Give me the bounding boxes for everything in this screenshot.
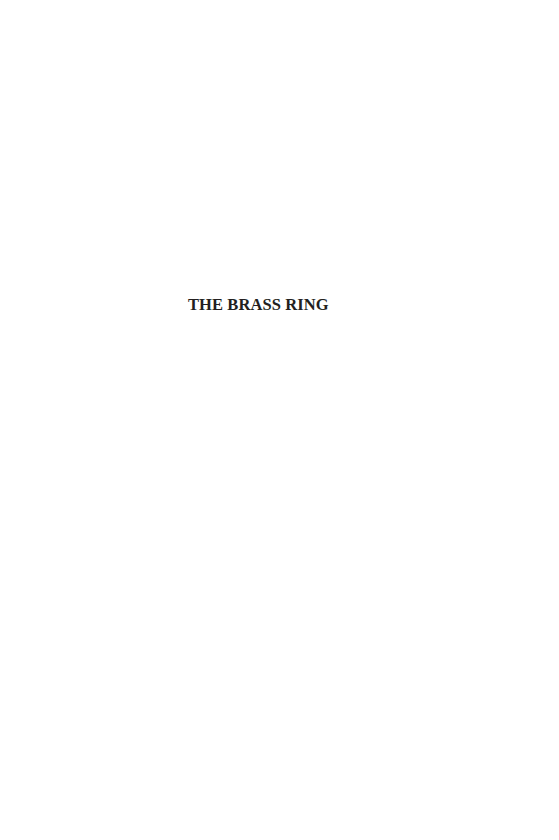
book-half-title-page: THE BRASS RING — [0, 0, 559, 840]
book-title: THE BRASS RING — [188, 296, 329, 314]
